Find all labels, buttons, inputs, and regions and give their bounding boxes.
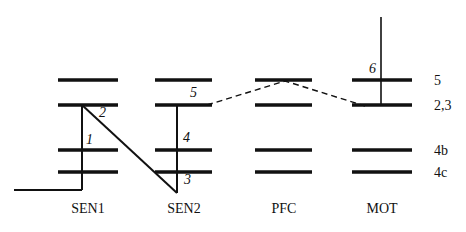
energy-level-diagram: 52,34b4c SEN1SEN2PFCMOT 123456 <box>0 0 466 232</box>
connector-dashed-sen2-pfc-mot <box>207 81 365 106</box>
level-bar-group <box>58 80 412 172</box>
column-label-mot: MOT <box>342 202 422 216</box>
row-label-4c: 4c <box>434 166 447 180</box>
transition-number-5: 5 <box>190 86 197 100</box>
transition-number-3: 3 <box>184 173 191 187</box>
row-label-5: 5 <box>434 74 441 88</box>
transition-number-2: 2 <box>99 106 106 120</box>
transition-number-6: 6 <box>369 62 376 76</box>
transition-number-1: 1 <box>86 133 93 147</box>
column-label-sen1: SEN1 <box>48 202 128 216</box>
row-label-4b: 4b <box>434 144 448 158</box>
column-label-sen2: SEN2 <box>144 202 224 216</box>
diagram-canvas <box>0 0 466 232</box>
transition-number-4: 4 <box>183 131 190 145</box>
column-label-pfc: PFC <box>244 202 324 216</box>
row-label-23: 2,3 <box>434 99 452 113</box>
